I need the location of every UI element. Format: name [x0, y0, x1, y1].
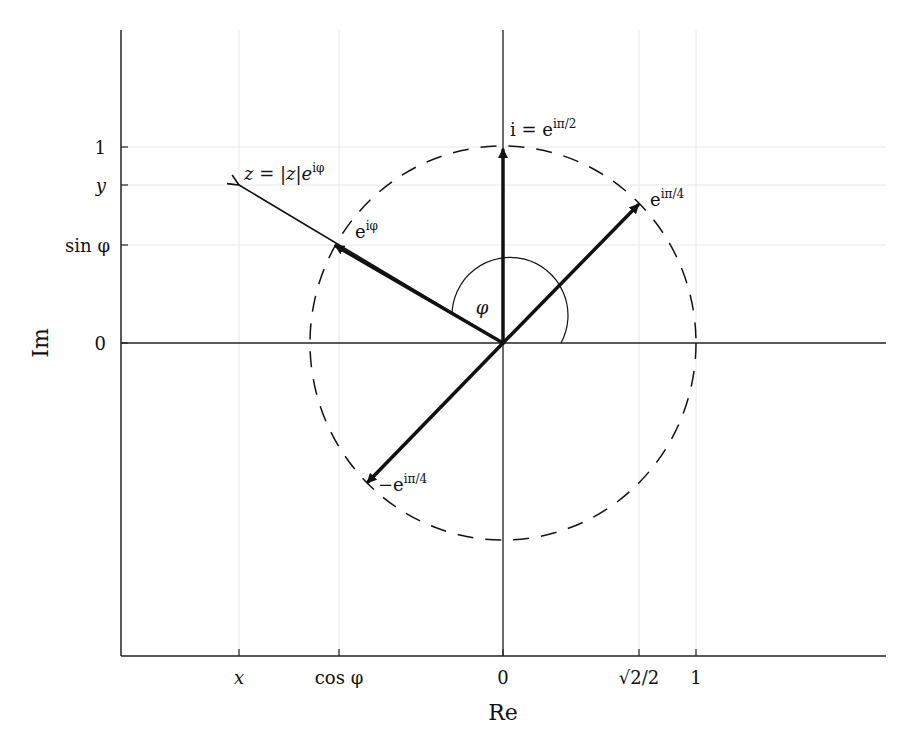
vectors	[239, 150, 638, 482]
label-e-iphi: eiφ	[355, 219, 378, 242]
y-tick-label-1: 1	[95, 137, 106, 158]
x-tick-label-sqrt2-over-2: √2/2	[619, 667, 659, 688]
y-tick-label-y: y	[95, 175, 107, 196]
vector-neg-e-ipi4	[368, 343, 503, 482]
x-tick-label-0: 0	[497, 667, 508, 688]
label-neg-e-ipi4: −eiπ/4	[378, 472, 428, 495]
label-z: z = |z|eiφ	[243, 161, 325, 185]
y-axis-title: Im	[28, 328, 53, 358]
x-axis-title: Re	[488, 700, 518, 725]
label-e-ipi4: eiπ/4	[650, 187, 684, 210]
axis-ticks	[121, 147, 696, 656]
complex-plane-figure: 1 y sin φ 0 x cos φ 0 √2/2 1 Re Im i = e…	[0, 0, 919, 749]
x-tick-label-1: 1	[690, 667, 701, 688]
x-tick-label-cos-phi: cos φ	[315, 667, 363, 688]
y-tick-label-sin-phi: sin φ	[65, 235, 110, 256]
label-i: i = eiπ/2	[510, 117, 576, 140]
x-tick-label-x: x	[234, 667, 244, 688]
vector-e-ipi4	[503, 205, 638, 343]
angle-arc-phi	[452, 257, 568, 343]
angle-label-phi: φ	[476, 297, 489, 318]
y-tick-label-0: 0	[95, 333, 106, 354]
vector-e-iphi	[336, 246, 503, 343]
